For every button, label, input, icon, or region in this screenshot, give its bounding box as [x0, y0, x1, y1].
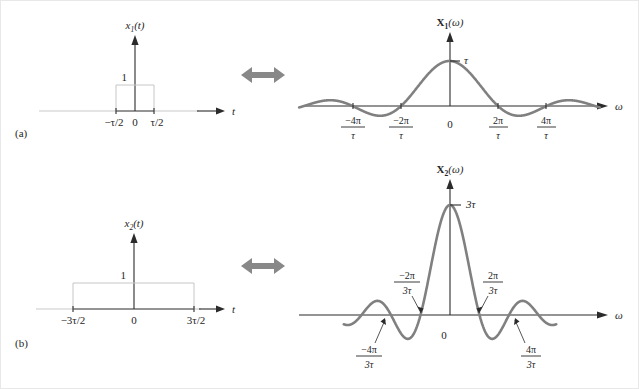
- frac-num: 2π: [493, 115, 503, 126]
- tick-label-neg-3tau-half: −3τ/2: [61, 314, 86, 326]
- axis-label-omega-X1: ω: [615, 100, 623, 112]
- frac-den: τ: [399, 130, 403, 141]
- amplitude-label-x1: 1: [122, 71, 128, 83]
- tick-label-X1-neg4pi: −4π τ: [341, 115, 365, 141]
- y-axis-arrow-head-x2: [130, 233, 137, 243]
- left-right-double-arrow-icon: [241, 258, 285, 274]
- plot-X2-freq: X2(ω) 3τ ω 0 −2π 3τ 2π 3τ −4π 3τ: [297, 163, 637, 387]
- plot-X2-freq-svg: X2(ω) 3τ ω 0 −2π 3τ 2π 3τ −4π 3τ: [297, 163, 637, 387]
- plot-x2-time: x2(t) 1 t −3τ/2 0 3τ/2: [11, 209, 251, 339]
- tick-label-X2-neg2pi: −2π 3τ: [394, 270, 420, 296]
- amplitude-label-x2: 1: [121, 269, 127, 281]
- frac-den: 3τ: [402, 285, 412, 296]
- frac-num: 4π: [526, 344, 536, 355]
- frac-num: −4π: [361, 344, 377, 355]
- axis-label-omega-X2: ω: [615, 309, 623, 321]
- frac-num: 4π: [541, 115, 551, 126]
- frac-den: 3τ: [488, 285, 498, 296]
- tick-label-X2-pos2pi: 2π 3τ: [483, 270, 503, 296]
- equivalence-arrow-b-svg: [239, 252, 287, 280]
- frac-den: 3τ: [364, 359, 374, 370]
- tick-label-origin-x1: 0: [132, 116, 138, 128]
- t-axis-arrow-head-x2: [216, 305, 225, 312]
- tick-label-origin-X2: 0: [441, 329, 447, 341]
- frac-num: −4π: [345, 115, 361, 126]
- omega-axis-arrow-head-X2: [597, 311, 608, 318]
- tick-label-X1-neg2pi: −2π τ: [389, 115, 413, 141]
- tick-label-origin-X1: 0: [447, 118, 453, 130]
- peak-label-X1: τ: [464, 54, 469, 66]
- frac-den: τ: [351, 130, 355, 141]
- figure-container: (a) x1(t) 1 t −τ/2: [0, 0, 639, 389]
- tick-label-X1-pos2pi: 2π τ: [489, 115, 508, 141]
- plot-title-X1: X1(ω): [437, 16, 464, 31]
- y-axis-arrow-head: [131, 35, 138, 45]
- plot-X1-freq: X1(ω) τ ω 0 −4π τ −2π τ 2π τ: [297, 13, 637, 145]
- plot-x1-time-svg: x1(t) 1 t −τ/2 0 τ/2: [11, 11, 251, 141]
- plot-title-x1: x1(t): [124, 19, 144, 34]
- equivalence-arrow-a: [239, 61, 287, 89]
- tick-label-origin-x2: 0: [131, 314, 137, 326]
- frac-num: 2π: [488, 270, 498, 281]
- X2-y-axis-arrow-head: [446, 179, 453, 189]
- pointer-X2-pos4pi: [515, 320, 525, 343]
- frac-den: τ: [544, 130, 548, 141]
- t-axis-arrow-head: [216, 107, 225, 114]
- plot-X1-freq-svg: X1(ω) τ ω 0 −4π τ −2π τ 2π τ: [297, 13, 637, 145]
- axis-label-t-x2: t: [232, 303, 236, 315]
- plot-title-x2: x2(t): [123, 217, 143, 232]
- plot-title-X2: X2(ω): [437, 163, 464, 178]
- tick-label-neg-tau-half: −τ/2: [104, 116, 123, 128]
- tick-label-X2-pos4pi: 4π 3τ: [521, 344, 541, 370]
- peak-label-X2: 3τ: [465, 198, 477, 210]
- plot-x2-time-svg: x2(t) 1 t −3τ/2 0 3τ/2: [11, 209, 251, 339]
- X1-y-axis-arrow-head: [446, 32, 453, 42]
- frac-num: −2π: [393, 115, 409, 126]
- frac-num: −2π: [399, 270, 415, 281]
- tick-label-pos-tau-half: τ/2: [151, 116, 164, 128]
- tick-label-X1-pos4pi: 4π τ: [537, 115, 556, 141]
- pointer-X2-neg4pi: [375, 320, 385, 343]
- frac-den: τ: [496, 130, 500, 141]
- axis-label-t-x1: t: [232, 105, 236, 117]
- equivalence-arrow-a-svg: [239, 61, 287, 89]
- frac-den: 3τ: [526, 359, 536, 370]
- tick-label-X2-neg4pi: −4π 3τ: [356, 344, 382, 370]
- left-right-double-arrow-icon: [241, 67, 285, 83]
- equivalence-arrow-b: [239, 252, 287, 280]
- plot-x1-time: x1(t) 1 t −τ/2 0 τ/2: [11, 11, 251, 141]
- tick-label-pos-3tau-half: 3τ/2: [187, 314, 205, 326]
